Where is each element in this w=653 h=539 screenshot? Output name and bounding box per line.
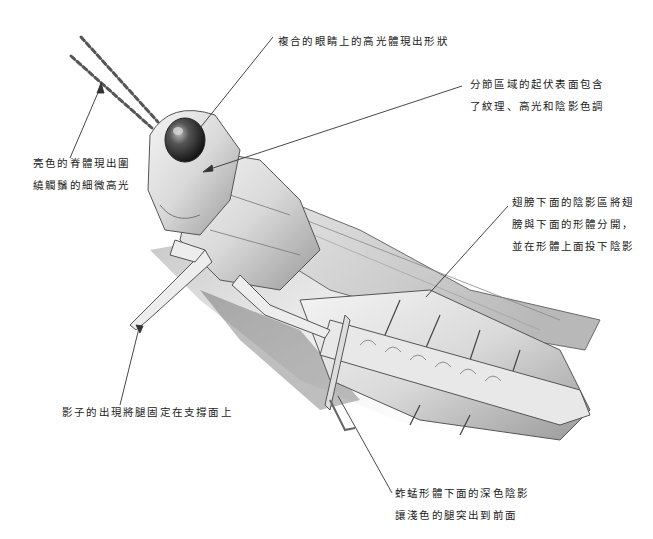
annotation-antennae: 亮色的脊體現出圍 繞觸鬚的細微高光 <box>33 152 131 196</box>
annotation-line: 並在形體上面投下陰影 <box>512 235 634 257</box>
annotation-line: 繞觸鬚的細微高光 <box>33 174 131 196</box>
leader-antennae <box>70 88 100 158</box>
leader-eye <box>200 37 273 128</box>
annotation-line: 翅膀下面的陰影區將翅 <box>512 191 634 213</box>
compound-eye <box>165 118 205 162</box>
annotation-wing-shadow: 翅膀下面的陰影區將翅 膀與下面的形體分開， 並在形體上面投下陰影 <box>512 191 634 257</box>
annotation-line: 分節區域的起伏表面包含 <box>470 73 604 95</box>
annotation-leg-contrast: 蚱蜢形體下面的深色陰影 讓淺色的腿突出到前面 <box>395 482 529 526</box>
annotation-segments: 分節區域的起伏表面包含 了紋理、高光和陰影色調 <box>470 73 604 117</box>
annotation-line: 蚱蜢形體下面的深色陰影 <box>395 482 529 504</box>
annotation-line: 了紋理、高光和陰影色調 <box>470 95 604 117</box>
leader-segments <box>207 86 462 170</box>
annotation-line: 影子的出現將腿固定在支撐面上 <box>62 401 233 423</box>
annotation-support-shadow: 影子的出現將腿固定在支撐面上 <box>62 401 233 423</box>
annotation-line: 亮色的脊體現出圍 <box>33 152 131 174</box>
annotation-line: 讓淺色的腿突出到前面 <box>395 504 529 526</box>
leader-support-shadow <box>120 328 139 405</box>
annotation-eye: 複合的眼睛上的高光體現出形狀 <box>278 30 449 52</box>
annotation-line: 複合的眼睛上的高光體現出形狀 <box>278 30 449 52</box>
antennae <box>71 37 158 128</box>
annotation-line: 膀與下面的形體分開， <box>512 213 634 235</box>
